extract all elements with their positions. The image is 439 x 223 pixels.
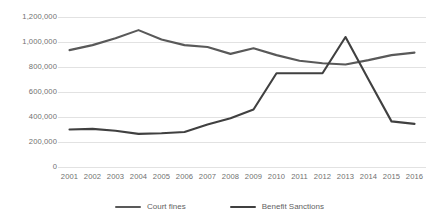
x-axis-tick-label: 2007: [196, 173, 219, 181]
legend-line-swatch-icon: [115, 206, 141, 208]
y-axis-tick-label: 1,200,000: [1, 13, 57, 21]
x-axis-tick-label: 2014: [357, 173, 380, 181]
y-axis-tick-label: 800,000: [1, 63, 57, 71]
x-axis-tick-label: 2011: [288, 173, 311, 181]
x-axis-tick-label: 2006: [173, 173, 196, 181]
x-axis-tick-label: 2009: [242, 173, 265, 181]
x-axis-tick-label: 2003: [104, 173, 127, 181]
x-axis: 2001200220032004200520062007200820092010…: [58, 170, 426, 184]
x-axis-tick-label: 2015: [380, 173, 403, 181]
y-axis: 1,200,0001,000,000800,000600,000400,0002…: [0, 0, 57, 223]
legend-item[interactable]: Benefit Sanctions: [230, 203, 324, 211]
x-axis-tick-label: 2012: [311, 173, 334, 181]
legend-item-label: Court fines: [147, 203, 186, 211]
y-axis-tick-label: 200,000: [1, 138, 57, 146]
x-axis-tick-label: 2016: [403, 173, 426, 181]
chart-legend: Court finesBenefit Sanctions: [0, 199, 439, 215]
x-axis-tick-label: 2005: [150, 173, 173, 181]
y-axis-tick-label: 0: [1, 163, 57, 171]
x-axis-tick-label: 2002: [81, 173, 104, 181]
legend-item[interactable]: Court fines: [115, 203, 186, 211]
series-line-1: [70, 30, 415, 64]
y-axis-tick-label: 600,000: [1, 88, 57, 96]
line-chart: 1,200,0001,000,000800,000600,000400,0002…: [0, 0, 439, 223]
x-axis-tick-label: 2004: [127, 173, 150, 181]
legend-line-swatch-icon: [230, 206, 256, 208]
y-axis-tick-label: 400,000: [1, 113, 57, 121]
x-axis-tick-label: 2013: [334, 173, 357, 181]
x-axis-tick-label: 2008: [219, 173, 242, 181]
series-lines: [70, 30, 415, 134]
chart-plot-area: [0, 0, 439, 223]
x-axis-tick-label: 2001: [58, 173, 81, 181]
legend-item-label: Benefit Sanctions: [262, 203, 324, 211]
y-axis-tick-label: 1,000,000: [1, 38, 57, 46]
x-axis-tick-label: 2010: [265, 173, 288, 181]
